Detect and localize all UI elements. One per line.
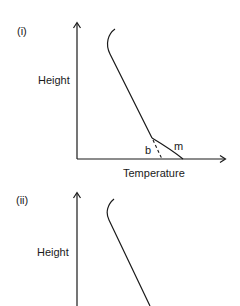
x-axis-label-i: Temperature — [123, 167, 185, 179]
panel-i: (i) Height Temperature b m — [17, 23, 226, 180]
y-axis-label-i: Height — [38, 74, 70, 86]
label-b: b — [145, 144, 151, 156]
temperature-height-diagram: (i) Height Temperature b m (ii) Height — [0, 0, 240, 306]
label-m: m — [174, 140, 183, 152]
panel-ii-label: (ii) — [16, 194, 28, 206]
temperature-profile-curve-i — [108, 29, 152, 138]
panel-ii: (ii) Height — [16, 193, 150, 306]
temperature-profile-curve-ii — [107, 199, 150, 306]
y-axis-label-ii: Height — [37, 246, 69, 258]
panel-i-label: (i) — [17, 25, 27, 37]
